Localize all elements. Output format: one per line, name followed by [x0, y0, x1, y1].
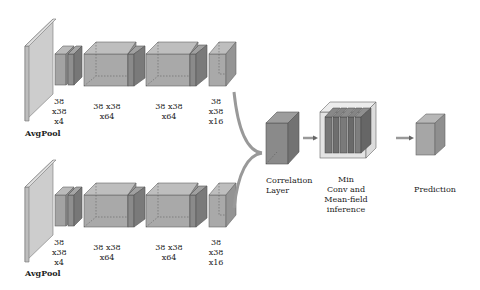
bottom-block-16-dims: 38 x38 x16 — [208, 238, 224, 268]
merge-curve-bottom — [234, 153, 262, 208]
prediction-cube — [416, 114, 445, 155]
bottom-block-b-dims: 38 x38 x64 — [146, 243, 192, 263]
top-block-a-dims: 38 x38 x64 — [84, 102, 130, 122]
top-avgpool-label: AvgPool — [25, 128, 61, 138]
bottom-avgpool-label: AvgPool — [25, 268, 61, 278]
correlation-label: Correlation Layer — [266, 176, 312, 196]
prediction-label: Prediction — [414, 185, 456, 195]
bottom-block-a-dims: 38 x38 x64 — [84, 243, 130, 263]
top-block-16-dims: 38 x38 x16 — [208, 97, 224, 127]
arrow-min-to-prediction — [396, 136, 414, 141]
top-slab-dims: 38 x38 x4 — [52, 97, 66, 127]
min-conv-frame — [320, 102, 376, 158]
correlation-cube — [266, 112, 299, 164]
arrow-corr-to-min — [303, 136, 318, 141]
merge-curve-top — [234, 92, 262, 153]
min-conv-label: Min Conv and Mean-field inference — [318, 175, 374, 215]
bottom-slab-dims: 38 x38 x4 — [52, 238, 66, 268]
min-conv-slices — [325, 108, 371, 153]
top-block-b-dims: 38 x38 x64 — [146, 102, 192, 122]
network-diagram — [0, 0, 480, 290]
